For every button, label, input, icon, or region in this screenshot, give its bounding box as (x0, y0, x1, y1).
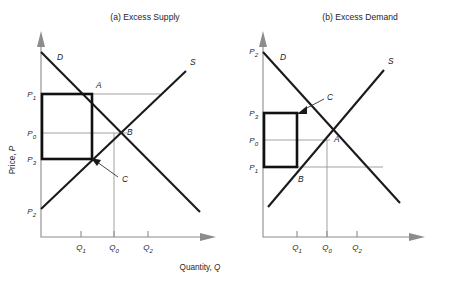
panel-a: (a) Excess Supply D S (27, 12, 216, 254)
panel-a-ylabel-p0: P0 (27, 129, 36, 140)
panel-b-title: (b) Excess Demand (322, 12, 398, 22)
panel-a-ylabel-p1: P1 (27, 90, 36, 101)
panel-a-leader-arrow-c-icon (91, 158, 101, 166)
panel-a-ylabel-p2: P2 (27, 207, 36, 218)
panel-b-xlabel-q0: Q0 (322, 243, 332, 254)
panel-b-xlabel-q1: Q1 (292, 243, 302, 254)
panel-b-demand-label: D (280, 52, 286, 62)
panel-b-point-a-label: A (333, 134, 340, 144)
panel-a-xlabel-q2: Q2 (143, 243, 153, 254)
panel-a-curves (41, 52, 200, 212)
panel-a-x-arrow-icon (200, 233, 216, 241)
panel-a-ylabel-p3: P3 (27, 155, 36, 166)
panel-b-supply-curve (268, 70, 384, 207)
supply-demand-figure: (a) Excess Supply D S (0, 0, 449, 282)
panel-a-guides (41, 94, 160, 237)
panel-b-leader-arrow-c-icon (297, 106, 307, 114)
panel-b-axes (259, 31, 425, 241)
panel-a-supply-curve (41, 71, 186, 209)
panel-a-axis-lines (41, 43, 205, 237)
panel-b-ylabel-p3: P3 (249, 109, 258, 120)
panel-b-ylabel-p1: P1 (249, 163, 258, 174)
panel-a-point-b-label: B (127, 127, 133, 137)
panel-b-point-c-leader (297, 99, 324, 114)
x-axis-title: Quantity, Q (180, 263, 221, 272)
panel-b-point-b-label: B (298, 174, 304, 184)
panel-a-xlabel-q1: Q1 (76, 243, 86, 254)
panel-b-curves (263, 52, 400, 207)
panel-a-title: (a) Excess Supply (110, 12, 180, 22)
panel-a-point-c-label: C (122, 174, 129, 184)
panel-b: (b) Excess Demand D S C A (249, 12, 425, 254)
panel-b-supply-label: S (388, 56, 394, 66)
panel-a-excess-supply-box (42, 94, 92, 159)
panel-a-xlabel-q0: Q0 (109, 243, 119, 254)
panel-a-point-a-label: A (95, 80, 102, 90)
panel-b-xlabel-q2: Q2 (352, 243, 362, 254)
panel-a-supply-label: S (190, 57, 196, 67)
panel-a-y-arrow-icon (37, 31, 45, 47)
y-axis-title: Price, P (8, 145, 17, 174)
panel-b-guides (263, 113, 383, 237)
panel-b-ylabel-p2: P2 (249, 47, 258, 58)
figure-canvas: (a) Excess Supply D S (0, 0, 449, 282)
panel-b-x-arrow-icon (409, 233, 425, 241)
panel-b-point-c-label: C (327, 92, 334, 102)
panel-a-demand-label: D (57, 52, 63, 62)
panel-b-y-arrow-icon (259, 31, 267, 47)
panel-a-leader-line-c (97, 162, 118, 177)
panel-b-ylabel-p0: P0 (249, 136, 258, 147)
